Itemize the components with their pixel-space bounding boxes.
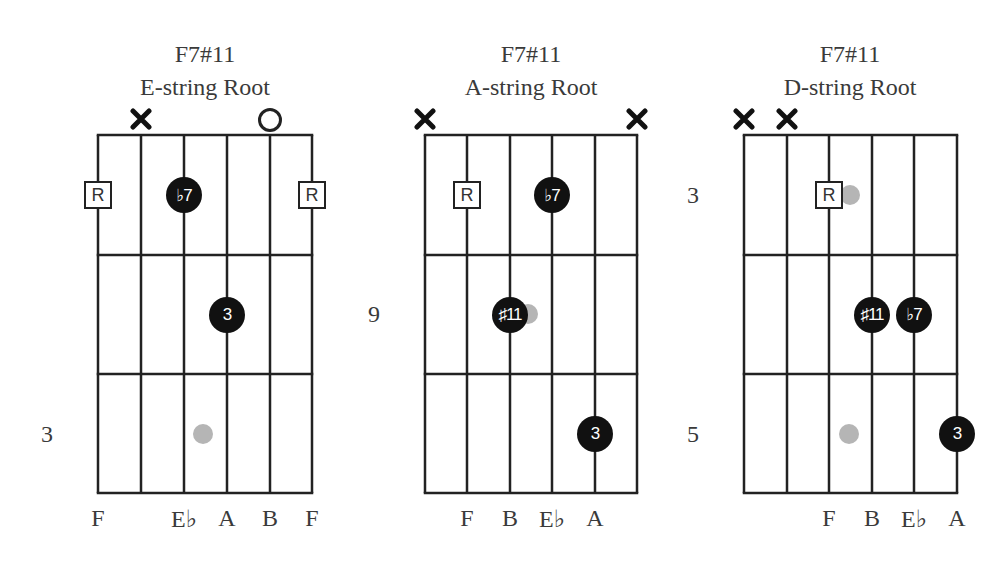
root-note-box: R	[815, 181, 843, 209]
note-name-label: B	[864, 505, 880, 532]
interval-dot: 3	[939, 416, 975, 452]
note-name-label: F	[822, 505, 835, 532]
chord-diagrams: F7#11E-string Root3R♭7R3FE♭ABFF7#11A-str…	[0, 0, 1008, 562]
mute-x-icon	[733, 108, 755, 130]
note-name-label: A	[948, 505, 965, 532]
interval-dot: ♭7	[896, 297, 932, 333]
ghost-note-dot	[839, 424, 859, 444]
fret-number: 3	[687, 182, 699, 209]
interval-dot: ♯11	[854, 297, 890, 333]
fret-number: 5	[687, 421, 699, 448]
fretboard-grid	[0, 0, 1008, 562]
mute-x-icon	[776, 108, 798, 130]
note-name-label: E♭	[901, 505, 927, 533]
ghost-note-dot	[840, 185, 860, 205]
